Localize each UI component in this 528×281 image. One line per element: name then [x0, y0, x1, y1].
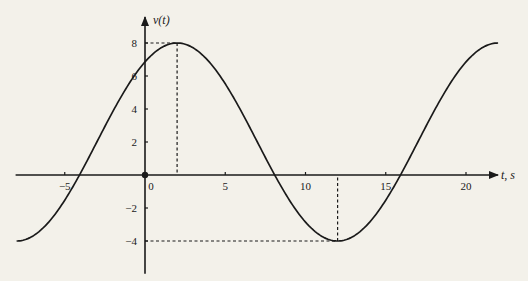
x-tick-label: 5: [223, 180, 229, 192]
y-tick-label: 2: [132, 136, 138, 148]
x-tick-label: −5: [59, 180, 71, 192]
y-tick-label: −2: [125, 202, 137, 214]
x-tick-label: 10: [300, 180, 312, 192]
chart: −505101520 8642−2−4 t, s v(t): [0, 0, 528, 281]
x-tick-label: 15: [380, 180, 392, 192]
x-tick-label: 0: [148, 180, 154, 192]
axes: [16, 17, 498, 274]
y-tick-label: 8: [132, 37, 138, 49]
y-tick-label: 4: [132, 103, 138, 115]
series-line-v: [17, 43, 499, 241]
x-axis-label: t, s: [501, 168, 515, 182]
x-tick-label: 20: [461, 180, 473, 192]
y-tick-label: −4: [125, 235, 137, 247]
chart-plot-area: −505101520 8642−2−4 t, s v(t): [0, 0, 528, 281]
origin-dot: [142, 172, 148, 178]
dashed-guides: [145, 43, 338, 241]
y-axis-label: v(t): [153, 13, 170, 27]
